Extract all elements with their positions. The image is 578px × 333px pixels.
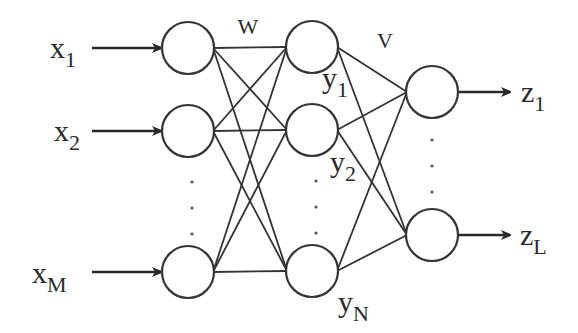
input-label: x1 [50,31,76,72]
w-weight-edges [213,47,287,272]
w-weight-label: W [238,14,259,39]
output-node [406,209,458,261]
output-label: z1 [521,75,545,116]
w-edge [213,47,287,48]
output-label: zL [520,218,547,259]
neuron-nodes [162,21,458,298]
v-edge [337,47,407,235]
ellipsis-dot [430,190,433,193]
output-node [406,66,458,118]
w-edge [213,271,287,272]
ellipsis-dot [190,180,193,183]
v-edge [337,235,407,271]
ellipsis-dot [190,206,193,209]
hidden-node [286,245,338,297]
ellipsis-dot [190,232,193,235]
ellipsis-dot [314,179,317,182]
hidden-label: yN [338,285,369,326]
ellipsis-dot [430,164,433,167]
input-node [162,246,214,298]
neural-network-diagram: x1x2xMy1y2yNz1zL W V [0,0,578,333]
ellipsis-dot [314,231,317,234]
ellipsis-dot [314,205,317,208]
input-label: x2 [54,114,80,155]
w-edge [213,130,287,131]
input-node [162,22,214,74]
input-label: xM [32,256,67,297]
input-node [162,105,214,157]
ellipsis-dot [430,138,433,141]
v-weight-label: V [377,28,393,53]
